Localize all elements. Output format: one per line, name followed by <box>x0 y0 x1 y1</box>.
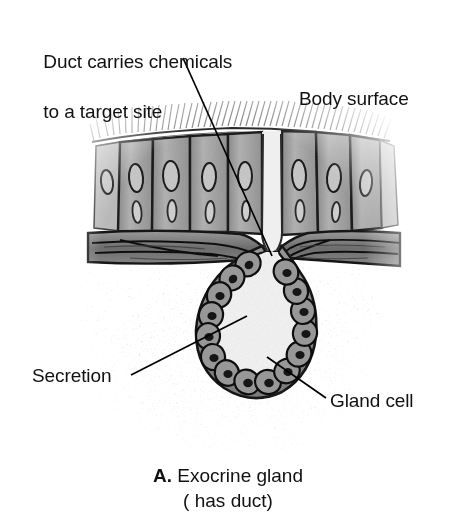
label-body-surface: Body surface <box>299 86 409 111</box>
columnar-epithelium <box>94 131 398 236</box>
duct-channel <box>262 131 282 252</box>
caption-title: Exocrine gland <box>172 465 303 486</box>
caption-line-1: A. Exocrine gland <box>0 463 456 488</box>
caption-line-2: ( has duct) <box>0 488 456 513</box>
label-duct: Duct carries chemicals to a target site <box>33 24 232 124</box>
label-secretion: Secretion <box>32 363 111 388</box>
label-gland-cell: Gland cell <box>330 388 414 413</box>
figure-caption: A. Exocrine gland ( has duct) <box>0 463 456 513</box>
label-duct-line1: Duct carries chemicals <box>43 51 232 72</box>
caption-letter: A. <box>153 465 172 486</box>
label-duct-line2: to a target site <box>43 101 162 122</box>
